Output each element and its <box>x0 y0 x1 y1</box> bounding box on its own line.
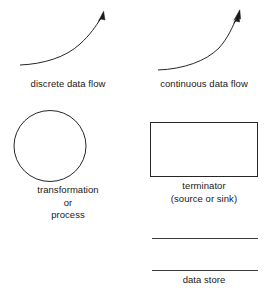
data-store-caption: data store <box>136 274 272 287</box>
caption-line: discrete data flow <box>0 78 136 91</box>
symbol-terminator: terminator (source or sink) <box>136 104 272 216</box>
symbol-transformation-process: transformation or process <box>0 104 136 216</box>
caption-line: data store <box>136 274 272 287</box>
caption-line: transformation <box>0 184 136 197</box>
caption-line: process <box>0 209 136 222</box>
symbol-discrete-data-flow: discrete data flow <box>0 8 136 100</box>
symbol-data-store: data store <box>136 220 272 296</box>
terminator-rectangle-glyph <box>136 104 272 184</box>
caption-line: or <box>0 197 136 210</box>
discrete-data-flow-arrow-glyph <box>0 8 136 76</box>
data-store-lines-glyph <box>136 220 272 276</box>
continuous-data-flow-arrow-glyph <box>136 8 272 76</box>
caption-line: continuous data flow <box>136 78 272 91</box>
continuous-data-flow-caption: continuous data flow <box>136 78 272 91</box>
process-circle-glyph <box>0 104 136 184</box>
caption-line: terminator <box>136 180 272 193</box>
symbol-continuous-data-flow: continuous data flow <box>136 8 272 100</box>
dfd-notation-legend: discrete data flow continuous data flow … <box>0 0 272 299</box>
transformation-process-caption: transformation or process <box>0 184 136 222</box>
caption-line: (source or sink) <box>136 193 272 206</box>
discrete-data-flow-caption: discrete data flow <box>0 78 136 91</box>
terminator-caption: terminator (source or sink) <box>136 180 272 205</box>
